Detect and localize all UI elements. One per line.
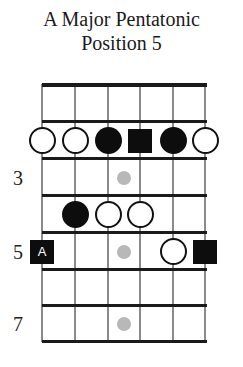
fret-inlay-dot [117,245,131,259]
open-note-circle [192,127,219,154]
fret-line-2 [42,157,207,160]
filled-note-dot [62,201,89,228]
filled-note-dot [160,127,187,154]
fretboard: 357A [0,0,243,367]
fret-number-label: 3 [13,168,23,188]
root-note-square [128,129,152,153]
open-note-circle [62,127,89,154]
root-note-square [193,240,217,264]
fret-inlay-dot [117,317,131,331]
fret-line-0 [42,83,207,87]
filled-note-dot [95,127,122,154]
fret-number-label: 7 [13,314,23,334]
fret-line-5 [42,268,207,271]
root-note-square: A [30,240,54,264]
open-note-circle [95,201,122,228]
fret-line-4 [42,231,207,234]
open-note-circle [127,201,154,228]
open-note-circle [29,127,56,154]
fret-line-1 [42,120,207,123]
fret-inlay-dot [117,171,131,185]
fret-line-6 [42,304,207,307]
fret-line-7 [42,340,207,343]
fret-number-label: 5 [13,242,23,262]
fret-line-3 [42,194,207,197]
open-note-circle [160,238,187,265]
